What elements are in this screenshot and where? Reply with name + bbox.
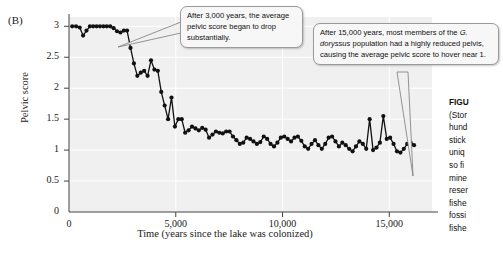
data-point xyxy=(156,69,160,73)
data-point xyxy=(391,142,395,146)
data-point xyxy=(289,139,293,143)
figure-panel-b: (B) Pelvic score Time (years since the l… xyxy=(0,0,503,256)
data-point xyxy=(173,124,177,128)
data-point xyxy=(74,24,78,28)
data-point xyxy=(364,147,368,151)
x-tick-label: 0 xyxy=(42,218,96,229)
y-tick-label: 2 xyxy=(25,81,59,92)
data-point xyxy=(163,103,167,107)
data-point xyxy=(309,142,313,146)
data-point xyxy=(258,140,262,144)
y-tick-label: 1 xyxy=(25,143,59,154)
data-point xyxy=(70,24,74,28)
data-point xyxy=(210,133,214,137)
y-tick-label: 2.5 xyxy=(25,50,59,61)
data-point xyxy=(186,128,190,132)
caption-line: (Stor xyxy=(449,109,503,122)
data-point xyxy=(303,144,307,148)
data-point xyxy=(275,141,279,145)
caption-line: mine xyxy=(449,172,503,185)
data-point xyxy=(378,141,382,145)
data-point xyxy=(402,147,406,151)
data-point xyxy=(251,139,255,143)
data-point xyxy=(388,136,392,140)
data-point xyxy=(368,117,372,121)
data-point xyxy=(81,33,85,37)
caption-line: so fi xyxy=(449,159,503,172)
data-point xyxy=(381,114,385,118)
data-point xyxy=(357,139,361,143)
data-point xyxy=(135,74,139,78)
data-point xyxy=(84,29,88,33)
data-point xyxy=(180,117,184,121)
data-point xyxy=(169,95,173,99)
data-point xyxy=(313,138,317,142)
y-tick-label: 3 xyxy=(25,19,59,30)
data-point xyxy=(282,134,286,138)
data-point xyxy=(227,129,231,133)
data-point xyxy=(340,141,344,145)
data-point xyxy=(132,61,136,65)
data-point xyxy=(306,147,310,151)
data-point xyxy=(361,142,365,146)
data-point xyxy=(286,137,290,141)
caption-body: (Storhundstickuniqso fiminereserfishefos… xyxy=(449,109,503,235)
data-point xyxy=(125,29,129,33)
data-point xyxy=(166,117,170,121)
data-point xyxy=(78,25,82,29)
data-point xyxy=(323,142,327,146)
data-point xyxy=(207,136,211,140)
data-point xyxy=(149,58,153,62)
caption-line: uniq xyxy=(449,146,503,159)
data-point xyxy=(159,90,163,94)
x-tick-label: 10,000 xyxy=(256,218,310,229)
data-point xyxy=(112,26,116,30)
caption-line: fishe xyxy=(449,197,503,210)
data-point xyxy=(142,69,146,73)
data-point xyxy=(371,148,375,152)
data-point xyxy=(145,74,149,78)
data-point xyxy=(347,147,351,151)
caption-title: FIGU xyxy=(449,96,503,109)
data-point xyxy=(234,138,238,142)
data-point xyxy=(330,134,334,138)
callout-3000-years: After 3,000 years, the average pelvic sc… xyxy=(180,6,303,48)
data-point xyxy=(299,139,303,143)
x-tick-label: 15,000 xyxy=(362,218,416,229)
data-point xyxy=(241,141,245,145)
data-point xyxy=(204,128,208,132)
data-point xyxy=(344,143,348,147)
data-point xyxy=(231,134,235,138)
data-point xyxy=(262,134,266,138)
data-point xyxy=(350,149,354,153)
data-point xyxy=(268,142,272,146)
caption-line: fishe xyxy=(449,222,503,235)
y-tick-label: 0 xyxy=(25,205,59,216)
y-tick-label: 1.5 xyxy=(25,112,59,123)
data-point xyxy=(265,137,269,141)
data-point xyxy=(374,146,378,150)
caption-line: fossi xyxy=(449,209,503,222)
data-point xyxy=(183,131,187,135)
data-point xyxy=(296,134,300,138)
x-tick-label: 5,000 xyxy=(149,218,203,229)
data-point xyxy=(337,144,341,148)
caption-line: reser xyxy=(449,184,503,197)
callout-15000-years: After 15,000 years, most members of the … xyxy=(313,23,499,65)
data-point xyxy=(128,46,132,50)
y-axis-title: Pelvic score xyxy=(19,53,30,143)
caption-line: hund xyxy=(449,121,503,134)
data-point xyxy=(398,150,402,154)
data-point xyxy=(320,147,324,151)
data-point xyxy=(412,143,416,147)
y-tick-label: 0.5 xyxy=(25,174,59,185)
species-name: G. doryssus xyxy=(320,28,468,48)
x-axis-title: Time (years since the lake was colonized… xyxy=(70,228,380,239)
data-point xyxy=(248,137,252,141)
data-point xyxy=(272,144,276,148)
caption-line: stick xyxy=(449,134,503,147)
data-point xyxy=(197,128,201,132)
figure-caption: FIGU (Storhundstickuniqso fiminereserfis… xyxy=(449,96,503,235)
data-point xyxy=(354,144,358,148)
data-point xyxy=(333,139,337,143)
